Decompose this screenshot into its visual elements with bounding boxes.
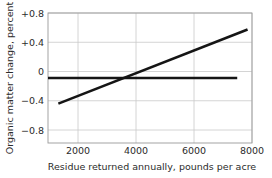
x-tick-label: 6000 [182,145,206,156]
y-tick-label: +0.8 [21,8,44,19]
y-tick-label: −0.4 [21,95,44,106]
x-axis-title: Residue returned annually, pounds per ac… [48,161,257,172]
y-axis-title: Organic matter change, percent [4,1,15,154]
x-tick-label: 4000 [124,145,148,156]
chart-container: +0.8 +0.4 0 −0.4 −0.8 2000 4000 6000 800… [0,0,272,178]
x-tick-label: 2000 [66,145,90,156]
x-tick-label: 8000 [240,145,264,156]
y-tick-label: +0.4 [21,37,44,48]
organic-matter-line-chart: +0.8 +0.4 0 −0.4 −0.8 2000 4000 6000 800… [0,0,272,178]
y-tick-label: 0 [38,66,44,77]
y-tick-label: −0.8 [21,125,44,136]
